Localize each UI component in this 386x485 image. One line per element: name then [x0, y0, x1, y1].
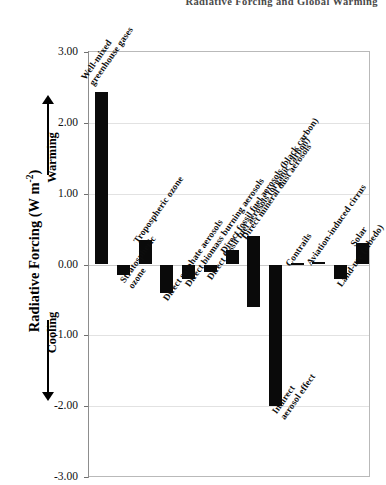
- bar-direct-mineral-dust-aerosols: [247, 236, 260, 307]
- gridline-2: [89, 123, 369, 124]
- y-tick-label: -3.00: [26, 470, 78, 482]
- gridline-minus1: [89, 335, 369, 336]
- y-axis-title-exponent: -2: [25, 175, 35, 183]
- y-axis-title-text: Radiative Forcing (W m: [26, 182, 42, 332]
- gridline-minus2: [89, 406, 369, 407]
- y-tick-label: 3.00: [26, 45, 78, 57]
- cooling-arrow-icon: [42, 320, 54, 402]
- y-axis-title-paren: ): [26, 170, 42, 175]
- gridline-1: [89, 194, 369, 195]
- radiative-forcing-chart: 3.00 2.00 1.00 0.00 -1.00 -2.00 -3.00 Ra…: [0, 0, 386, 485]
- bar-well-mixed-greenhouse-gases: [95, 92, 108, 264]
- y-axis-title: Radiative Forcing (W m-2): [25, 141, 43, 361]
- warming-arrow-icon: [42, 95, 54, 175]
- bar-indirect-aerosol-effect: [269, 265, 282, 407]
- y-axis-spine: [88, 51, 89, 478]
